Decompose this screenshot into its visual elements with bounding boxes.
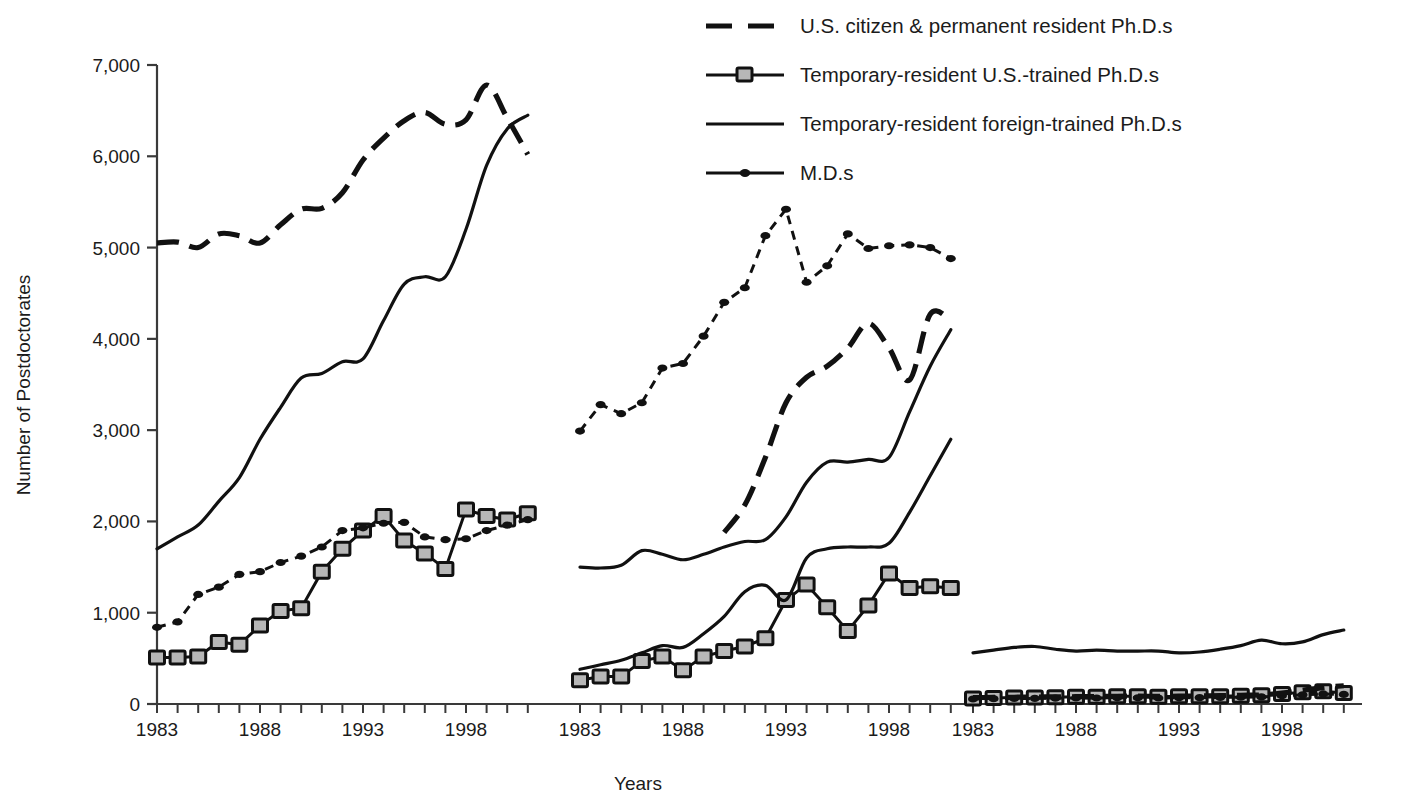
series-square-marker xyxy=(150,651,165,664)
series-square-marker xyxy=(294,602,309,615)
series-dot-marker xyxy=(657,364,667,371)
series-square-marker xyxy=(820,601,835,614)
series-square-marker xyxy=(397,534,412,547)
legend-label: Temporary-resident U.S.-trained Ph.D.s xyxy=(800,63,1159,86)
x-axis-tick-label: 1988 xyxy=(1055,719,1097,740)
series-dot-marker xyxy=(276,559,286,566)
series-square-marker xyxy=(861,599,876,612)
series-dot-marker xyxy=(1030,695,1040,702)
series-dot-marker xyxy=(637,399,647,406)
series-dot-marker xyxy=(863,245,873,252)
y-axis-tick-label: 6,000 xyxy=(92,146,140,167)
series-dot-marker xyxy=(925,244,935,251)
series-dot-marker xyxy=(1318,690,1328,697)
x-axis-tick-label: 1983 xyxy=(559,719,601,740)
series-square-marker xyxy=(717,645,732,658)
series-square-marker xyxy=(614,670,629,683)
legend-dot-marker xyxy=(740,169,750,177)
series-square-marker xyxy=(882,567,897,580)
x-axis-tick-label: 1983 xyxy=(952,719,994,740)
series-dot-marker xyxy=(379,520,389,527)
x-axis-tick-label: 1988 xyxy=(662,719,704,740)
series-square-marker xyxy=(696,650,711,663)
series-square-marker xyxy=(479,509,494,522)
y-axis-title: Number of Postdoctorates xyxy=(13,275,34,496)
y-axis-tick-label: 3,000 xyxy=(92,420,140,441)
chart-background xyxy=(0,0,1403,802)
series-dot-marker xyxy=(440,536,450,543)
series-square-marker xyxy=(314,565,329,578)
series-dot-marker xyxy=(1195,694,1205,701)
series-square-marker xyxy=(232,638,247,651)
legend-square-marker xyxy=(737,68,752,81)
x-axis-tick-label: 1993 xyxy=(342,719,384,740)
series-dot-marker xyxy=(152,624,162,631)
series-dot-marker xyxy=(760,232,770,239)
series-dot-marker xyxy=(802,279,812,286)
y-axis-tick-label: 7,000 xyxy=(92,55,140,76)
series-dot-marker xyxy=(946,255,956,262)
legend-label: M.D.s xyxy=(800,161,854,184)
series-square-marker xyxy=(676,664,691,677)
series-dot-marker xyxy=(822,262,832,269)
series-square-marker xyxy=(758,632,773,645)
series-square-marker xyxy=(273,604,288,617)
series-dot-marker xyxy=(502,521,512,528)
x-axis-tick-label: 1983 xyxy=(136,719,178,740)
x-axis-tick-label: 1993 xyxy=(765,719,807,740)
series-square-marker xyxy=(253,619,268,632)
series-dot-marker xyxy=(337,527,347,534)
chart-figure: U.S. citizen & permanent resident Ph.D.s… xyxy=(0,0,1403,802)
series-dot-marker xyxy=(596,401,606,408)
chart-canvas: U.S. citizen & permanent resident Ph.D.s… xyxy=(0,0,1403,802)
x-axis-tick-label: 1998 xyxy=(445,719,487,740)
series-square-marker xyxy=(459,503,474,516)
series-dot-marker xyxy=(616,410,626,417)
series-dot-marker xyxy=(523,516,533,523)
series-dot-marker xyxy=(214,584,224,591)
series-dot-marker xyxy=(905,241,915,248)
series-dot-marker xyxy=(296,553,306,560)
series-dot-marker xyxy=(234,571,244,578)
series-square-marker xyxy=(170,651,185,664)
series-dot-marker xyxy=(678,360,688,367)
series-dot-marker xyxy=(575,427,585,434)
series-dot-marker xyxy=(173,618,183,625)
series-dot-marker xyxy=(193,591,203,598)
y-axis-tick-label: 5,000 xyxy=(92,238,140,259)
series-square-marker xyxy=(634,655,649,668)
series-square-marker xyxy=(417,547,432,560)
series-dot-marker xyxy=(255,568,265,575)
series-dot-marker xyxy=(884,242,894,249)
y-axis-tick-label: 1,000 xyxy=(92,603,140,624)
series-square-marker xyxy=(943,582,958,595)
series-square-marker xyxy=(593,670,608,683)
legend-label: U.S. citizen & permanent resident Ph.D.s xyxy=(800,14,1173,37)
series-dot-marker xyxy=(317,543,327,550)
x-axis-tick-label: 1988 xyxy=(239,719,281,740)
series-dot-marker xyxy=(1339,691,1349,698)
series-square-marker xyxy=(902,582,917,595)
series-square-marker xyxy=(840,624,855,637)
series-square-marker xyxy=(573,674,588,687)
series-square-marker xyxy=(335,542,350,555)
x-axis-tick-label: 1998 xyxy=(868,719,910,740)
series-dot-marker xyxy=(461,535,471,542)
series-dot-marker xyxy=(699,333,709,340)
x-axis-tick-label: 1998 xyxy=(1261,719,1303,740)
series-dot-marker xyxy=(740,284,750,291)
series-square-marker xyxy=(799,578,814,591)
series-square-marker xyxy=(737,640,752,653)
series-square-marker xyxy=(211,635,226,648)
series-dot-marker xyxy=(843,230,853,237)
series-dot-marker xyxy=(399,519,409,526)
series-dot-marker xyxy=(358,524,368,531)
y-axis-tick-label: 2,000 xyxy=(92,511,140,532)
y-axis-tick-label: 0 xyxy=(129,694,140,715)
x-axis-title: Years xyxy=(614,773,662,794)
series-dot-marker xyxy=(719,299,729,306)
series-square-marker xyxy=(191,650,206,663)
series-dot-marker xyxy=(482,527,492,534)
x-axis-tick-label: 1993 xyxy=(1158,719,1200,740)
series-square-marker xyxy=(923,580,938,593)
